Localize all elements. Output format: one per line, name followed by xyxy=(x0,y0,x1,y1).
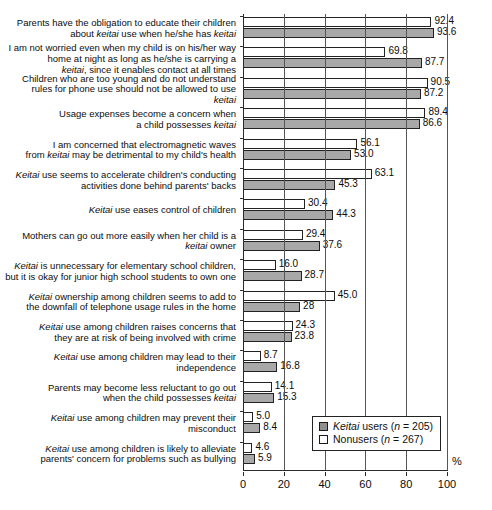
value-label-nonusers: 24.3 xyxy=(296,320,315,330)
gridline xyxy=(365,14,366,470)
value-label-keitai-users: 23.8 xyxy=(295,331,314,341)
bar-row: Keitai ownership among children seems to… xyxy=(243,288,447,318)
bar-nonusers xyxy=(243,260,276,270)
value-label-keitai-users: 5.9 xyxy=(258,453,272,463)
bar-keitai-users xyxy=(243,119,420,129)
value-label-nonusers: 4.6 xyxy=(255,442,269,452)
bar-row: Keitai use among children raises concern… xyxy=(243,318,447,348)
category-label: I am not worried even when my child is o… xyxy=(4,43,236,75)
bar-keitai-users xyxy=(243,271,302,281)
x-axis-tick xyxy=(243,472,244,476)
plot-area: Parents have the obligation to educate t… xyxy=(243,14,447,470)
bar-nonusers xyxy=(243,382,272,392)
gridline xyxy=(447,14,448,470)
bar-nonusers xyxy=(243,47,385,57)
legend-label-users: Keitai users (n = 205) xyxy=(333,420,433,433)
bar-keitai-users xyxy=(243,89,421,99)
category-label: Keitai use among children is likely to a… xyxy=(4,444,236,465)
bar-nonusers xyxy=(243,321,293,331)
value-label-keitai-users: 28.7 xyxy=(305,270,324,280)
bar-nonusers xyxy=(243,17,431,27)
x-axis: 020406080100 xyxy=(243,472,448,502)
value-label-nonusers: 89.4 xyxy=(428,107,447,117)
bar-nonusers xyxy=(243,108,425,118)
value-label-nonusers: 8.7 xyxy=(264,350,278,360)
legend-item-nonusers: Nonusers (n = 267) xyxy=(319,433,433,446)
category-label: Keitai use among children raises concern… xyxy=(4,322,236,343)
bar-keitai-users xyxy=(243,423,260,433)
bar-row: Children who are too young and do not un… xyxy=(243,75,447,105)
category-label: Parents may become less reluctant to go … xyxy=(4,383,236,404)
bar-row: I am not worried even when my child is o… xyxy=(243,44,447,74)
value-label-keitai-users: 15.3 xyxy=(277,392,296,402)
bar-nonusers xyxy=(243,351,261,361)
category-label: I am concerned that electromagnetic wave… xyxy=(4,140,236,161)
bar-row: Keitai use eases control of children30.4… xyxy=(243,196,447,226)
value-label-keitai-users: 87.7 xyxy=(425,57,444,67)
bar-keitai-users xyxy=(243,180,335,190)
value-label-nonusers: 63.1 xyxy=(375,168,394,178)
value-label-nonusers: 5.0 xyxy=(256,411,270,421)
bar-keitai-users xyxy=(243,454,255,464)
value-label-keitai-users: 86.6 xyxy=(423,118,442,128)
bar-keitai-users xyxy=(243,210,333,220)
bar-row: Mothers can go out more easily when her … xyxy=(243,227,447,257)
category-label: Children who are too young and do not un… xyxy=(4,74,236,106)
value-label-keitai-users: 53.0 xyxy=(354,149,373,159)
x-axis-tick-label: 0 xyxy=(240,478,246,490)
x-axis-tick xyxy=(365,472,366,476)
x-axis-unit-label: % xyxy=(452,455,462,467)
bar-nonusers xyxy=(243,199,305,209)
gridline xyxy=(325,14,326,470)
bar-row: Keitai use among children may lead to th… xyxy=(243,348,447,378)
x-axis-tick-label: 40 xyxy=(318,478,330,490)
category-label: Keitai ownership among children seems to… xyxy=(4,292,236,313)
gridline xyxy=(284,14,285,470)
value-label-nonusers: 92.4 xyxy=(434,16,453,26)
value-label-keitai-users: 44.3 xyxy=(336,209,355,219)
x-axis-tick xyxy=(284,472,285,476)
legend-swatch-icon-nonusers xyxy=(319,435,328,444)
bar-row: Parents have the obligation to educate t… xyxy=(243,14,447,44)
value-label-nonusers: 45.0 xyxy=(338,290,357,300)
category-label: Keitai is unnecessary for elementary sch… xyxy=(4,261,236,282)
value-label-keitai-users: 45.3 xyxy=(338,179,357,189)
bar-nonusers xyxy=(243,291,335,301)
category-label: Keitai use seems to accelerate children'… xyxy=(4,170,236,191)
bar-nonusers xyxy=(243,139,357,149)
legend-item-keitai-users: Keitai users (n = 205) xyxy=(319,420,433,433)
category-label: Parents have the obligation to educate t… xyxy=(4,18,236,39)
x-axis-line xyxy=(243,470,448,471)
category-label: Usage expenses become a concern whena ch… xyxy=(4,109,236,130)
x-axis-tick-label: 100 xyxy=(438,478,456,490)
bar-row: I am concerned that electromagnetic wave… xyxy=(243,136,447,166)
bar-keitai-users xyxy=(243,241,320,251)
value-label-nonusers: 56.1 xyxy=(360,138,379,148)
value-label-nonusers: 16.0 xyxy=(279,259,298,269)
grouped-bar-chart: Parents have the obligation to educate t… xyxy=(0,0,492,510)
bar-row: Keitai use seems to accelerate children'… xyxy=(243,166,447,196)
chart-legend: Keitai users (n = 205) Nonusers (n = 267… xyxy=(312,416,441,451)
value-label-keitai-users: 87.2 xyxy=(424,88,443,98)
value-label-keitai-users: 37.6 xyxy=(323,240,342,250)
bar-nonusers xyxy=(243,230,303,240)
bar-keitai-users xyxy=(243,302,300,312)
bar-rows: Parents have the obligation to educate t… xyxy=(243,14,447,470)
value-label-keitai-users: 28 xyxy=(303,301,314,311)
gridline xyxy=(243,14,244,470)
bar-nonusers xyxy=(243,443,252,453)
bar-row: Parents may become less reluctant to go … xyxy=(243,379,447,409)
x-axis-tick xyxy=(406,472,407,476)
category-label: Mothers can go out more easily when her … xyxy=(4,231,236,252)
bar-nonusers xyxy=(243,412,253,422)
x-axis-tick-label: 60 xyxy=(359,478,371,490)
bar-keitai-users xyxy=(243,150,351,160)
category-label: Keitai use eases control of children xyxy=(4,205,236,216)
bar-keitai-users xyxy=(243,393,274,403)
bar-row: Usage expenses become a concern whena ch… xyxy=(243,105,447,135)
x-axis-tick-label: 80 xyxy=(400,478,412,490)
gridline xyxy=(406,14,407,470)
legend-swatch-icon-users xyxy=(319,422,328,431)
bar-keitai-users xyxy=(243,58,422,68)
category-label: Keitai use among children may prevent th… xyxy=(4,413,236,434)
